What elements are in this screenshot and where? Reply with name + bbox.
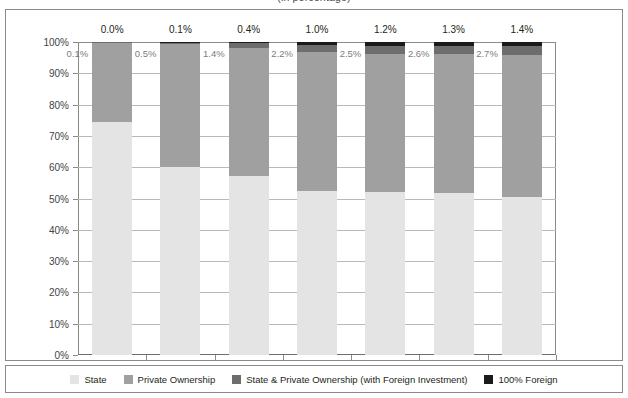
bar-segment: [160, 167, 200, 355]
bar-segment: [365, 192, 405, 355]
bar-segment: [160, 44, 200, 167]
bar-segment: [297, 191, 337, 355]
bar-segment: [502, 197, 542, 355]
stacked-bar-chart-figure: (in percentage) 0%10%20%30%40%50%60%70%8…: [0, 0, 628, 398]
legend: StatePrivate OwnershipState & Private Ow…: [5, 365, 623, 393]
top-data-label: 1.3%: [442, 24, 465, 35]
bar-segment: [92, 42, 132, 122]
legend-item: State & Private Ownership (with Foreign …: [232, 374, 467, 385]
legend-items: StatePrivate OwnershipState & Private Ow…: [6, 366, 622, 392]
legend-swatch: [70, 375, 79, 384]
y-axis-tick-label: 10%: [49, 318, 69, 329]
stacked-bar: [297, 42, 337, 355]
legend-label: 100% Foreign: [498, 374, 557, 385]
stacked-bar: [92, 42, 132, 355]
inside-data-label: 0.5%: [135, 47, 157, 58]
legend-label: Private Ownership: [138, 374, 216, 385]
y-axis-tick: [73, 136, 78, 137]
y-axis-tick: [73, 199, 78, 200]
plot-area: 0%10%20%30%40%50%60%70%80%90%100% 199019…: [78, 42, 556, 355]
bar-segment: [365, 54, 405, 193]
bar-segment: [229, 42, 269, 43]
bar-segment: [434, 193, 474, 355]
bar-segment: [92, 122, 132, 355]
y-axis-tick: [73, 167, 78, 168]
inside-data-label: 2.5%: [340, 47, 362, 58]
stacked-bar: [502, 42, 542, 355]
bar-segment: [297, 45, 337, 52]
x-axis-tick: [488, 355, 489, 361]
top-data-label: 0.1%: [169, 24, 192, 35]
stacked-bar: [434, 42, 474, 355]
legend-item: State: [70, 374, 106, 385]
y-axis-tick-label: 50%: [49, 193, 69, 204]
legend-label: State: [84, 374, 106, 385]
bar-segment: [229, 48, 269, 176]
inside-data-label: 0.1%: [66, 47, 88, 58]
stacked-bar: [229, 42, 269, 355]
top-data-label: 1.0%: [306, 24, 329, 35]
bar-segment: [160, 42, 200, 44]
chart-plot-panel: 0%10%20%30%40%50%60%70%80%90%100% 199019…: [5, 9, 623, 361]
top-data-label: 1.4%: [510, 24, 533, 35]
stacked-bar: [365, 42, 405, 355]
y-axis-tick: [73, 42, 78, 43]
chart-title-clipped: (in percentage): [0, 0, 628, 5]
bar-segment: [365, 42, 405, 46]
y-axis-tick-label: 100%: [43, 37, 69, 48]
y-axis-tick-label: 90%: [49, 68, 69, 79]
y-axis-tick: [73, 105, 78, 106]
y-axis-tick-label: 20%: [49, 287, 69, 298]
y-axis-tick: [73, 230, 78, 231]
bar-segment: [365, 46, 405, 54]
y-axis-tick-label: 30%: [49, 256, 69, 267]
y-axis-tick-label: 70%: [49, 130, 69, 141]
x-axis-tick: [283, 355, 284, 361]
legend-swatch: [232, 375, 241, 384]
legend-swatch: [124, 375, 133, 384]
bar-segment: [434, 42, 474, 46]
x-axis-tick: [419, 355, 420, 361]
legend-item: Private Ownership: [124, 374, 216, 385]
x-axis-tick: [146, 355, 147, 361]
x-axis-tick: [351, 355, 352, 361]
legend-label: State & Private Ownership (with Foreign …: [246, 374, 467, 385]
y-axis-tick-label: 40%: [49, 224, 69, 235]
legend-swatch: [484, 375, 493, 384]
top-data-label: 0.0%: [101, 24, 124, 35]
top-data-label: 1.2%: [374, 24, 397, 35]
y-axis-tick: [73, 261, 78, 262]
inside-data-label: 1.4%: [203, 47, 225, 58]
bar-segment: [434, 46, 474, 54]
y-axis-tick: [73, 324, 78, 325]
bar-segment: [297, 42, 337, 45]
legend-item: 100% Foreign: [484, 374, 557, 385]
y-axis-tick-label: 60%: [49, 162, 69, 173]
y-axis-tick: [73, 292, 78, 293]
inside-data-label: 2.7%: [476, 47, 498, 58]
bar-segment: [502, 46, 542, 54]
inside-data-label: 2.2%: [271, 47, 293, 58]
bar-segment: [229, 176, 269, 355]
x-axis-tick: [556, 355, 557, 361]
y-axis-tick-label: 80%: [49, 99, 69, 110]
x-axis-tick: [215, 355, 216, 361]
stacked-bar: [160, 42, 200, 355]
bar-segment: [434, 54, 474, 193]
inside-data-label: 2.6%: [408, 47, 430, 58]
bar-segment: [502, 55, 542, 197]
bar-segment: [502, 42, 542, 46]
bar-segment: [297, 52, 337, 191]
y-axis-tick: [73, 73, 78, 74]
y-axis-tick-label: 0%: [55, 350, 69, 361]
top-data-label: 0.4%: [237, 24, 260, 35]
bar-segment: [229, 43, 269, 47]
y-axis-tick: [73, 355, 78, 356]
